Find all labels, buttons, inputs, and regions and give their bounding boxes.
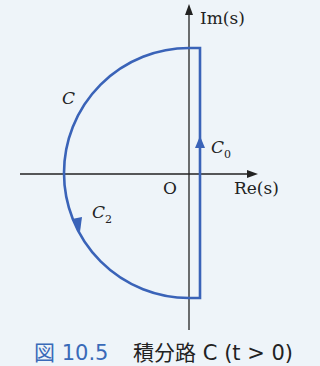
c0-direction-arrow-icon <box>195 136 205 148</box>
caption-number: 図 10.5 <box>34 341 108 365</box>
contour-c0-label: C0 <box>211 137 231 157</box>
contour-c-label: C <box>62 88 75 108</box>
caption-text: 積分路 C (t > 0) <box>133 341 293 365</box>
contour-c2-label: C2 <box>92 202 112 222</box>
contour-path <box>64 48 200 298</box>
c0-main: C <box>211 137 224 157</box>
real-axis-arrow-icon <box>247 170 258 178</box>
c0-subscript: 0 <box>224 148 231 161</box>
imag-axis-arrow-icon <box>185 4 193 15</box>
c2-subscript: 2 <box>105 213 112 226</box>
origin-label: O <box>163 178 177 198</box>
real-axis-label: Re(s) <box>234 178 279 198</box>
imag-axis-label: Im(s) <box>200 8 245 28</box>
figure-caption: 図 10.5 積分路 C (t > 0) <box>34 336 293 366</box>
c2-main: C <box>92 202 105 222</box>
